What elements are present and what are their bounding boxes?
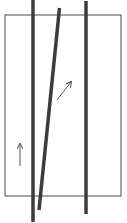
container-frame (5, 15, 121, 196)
refraction-diagram (0, 0, 127, 223)
diagonal-arrow-icon (57, 82, 71, 100)
slanted-rod (39, 8, 60, 210)
